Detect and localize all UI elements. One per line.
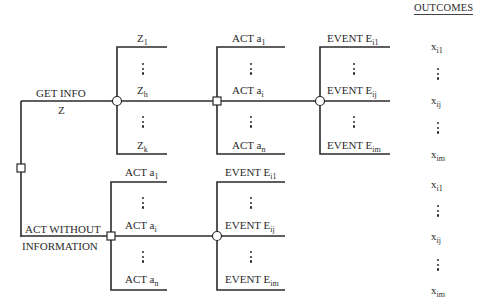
ellipsis-icon bbox=[250, 116, 253, 130]
top-act-a1: ACT a1 bbox=[232, 32, 265, 44]
ellipsis-icon bbox=[437, 259, 440, 273]
bottom-event-chance-node bbox=[213, 232, 222, 241]
top-event-chance-node bbox=[316, 97, 325, 106]
top-decision-node bbox=[213, 97, 221, 105]
bottom-decision-node bbox=[107, 232, 115, 240]
bottom-act-ai: ACT ai bbox=[125, 219, 157, 231]
ellipsis-icon bbox=[353, 63, 356, 77]
ellipsis-icon bbox=[250, 63, 253, 77]
bottom-event-ei1: EVENT Ei1 bbox=[225, 166, 277, 178]
top-outcome-xim: xim bbox=[431, 148, 445, 160]
top-event-ei1: EVENT Ei1 bbox=[327, 32, 379, 44]
act-without-info-label: ACT WITHOUT bbox=[25, 223, 101, 235]
top-event-eij: EVENT Eij bbox=[327, 84, 377, 96]
info-outcome-z1: Z1 bbox=[137, 32, 148, 44]
bottom-event-eij: EVENT Eij bbox=[225, 219, 275, 231]
top-event-eim: EVENT Eim bbox=[327, 139, 381, 151]
ellipsis-icon bbox=[142, 116, 145, 130]
ellipsis-icon bbox=[142, 251, 145, 265]
top-outcome-xij: xij bbox=[431, 94, 441, 106]
root-decision-node bbox=[17, 164, 25, 172]
ellipsis-icon bbox=[437, 122, 440, 136]
ellipsis-icon bbox=[142, 197, 145, 211]
top-act-ai: ACT ai bbox=[232, 84, 264, 96]
get-info-label: GET INFO bbox=[36, 87, 86, 99]
top-act-an: ACT an bbox=[232, 139, 265, 151]
bottom-event-eim: EVENT Eim bbox=[225, 273, 279, 285]
bottom-outcome-xi1: xi1 bbox=[431, 178, 443, 190]
bottom-act-a1: ACT a1 bbox=[125, 166, 158, 178]
ellipsis-icon bbox=[437, 205, 440, 219]
outcomes-header: OUTCOMES bbox=[414, 2, 473, 15]
ellipsis-icon bbox=[353, 116, 356, 130]
get-info-sublabel: Z bbox=[58, 104, 65, 116]
info-chance-node bbox=[113, 97, 122, 106]
bottom-outcome-xim: xim bbox=[431, 284, 445, 296]
ellipsis-icon bbox=[250, 251, 253, 265]
decision-tree-lines bbox=[0, 0, 480, 308]
bottom-outcome-xij: xij bbox=[431, 230, 441, 242]
info-outcome-zk: Zk bbox=[137, 139, 148, 151]
ellipsis-icon bbox=[250, 197, 253, 211]
top-outcome-xi1: xi1 bbox=[431, 40, 443, 52]
info-outcome-zh: Zh bbox=[137, 84, 148, 96]
ellipsis-icon bbox=[142, 63, 145, 77]
bottom-act-an: ACT an bbox=[125, 273, 158, 285]
ellipsis-icon bbox=[437, 68, 440, 82]
act-without-info-label-2: INFORMATION bbox=[22, 240, 98, 252]
